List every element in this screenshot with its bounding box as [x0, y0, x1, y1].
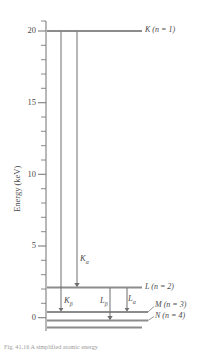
- level-label-N: N (n = 4): [155, 311, 185, 320]
- leader-N: [148, 317, 154, 321]
- level-label-M: M (n = 3): [155, 300, 186, 309]
- level-label-L: L (n = 2): [145, 282, 174, 291]
- figure-caption: Fig. 41.16 A simplified atomic energy: [4, 343, 200, 351]
- y-axis-title: Energy (keV): [12, 166, 22, 212]
- level-label-K: K (n = 1): [145, 25, 175, 34]
- y-tick-label-5: 5: [18, 240, 36, 250]
- transition-label-K-beta-sub: β: [70, 301, 73, 307]
- level-lines: [47, 31, 148, 328]
- transition-label-L-alpha: Lα: [128, 293, 136, 305]
- transition-label-L-alpha-sub: α: [133, 299, 136, 305]
- transition-label-K-alpha: Kα: [80, 253, 89, 265]
- y-axis: [38, 21, 46, 331]
- level-leader-lines: [148, 307, 154, 321]
- y-tick-label-15: 15: [18, 97, 36, 107]
- transition-arrows: [61, 32, 127, 319]
- transition-label-L-beta-sub: β: [105, 301, 108, 307]
- leader-M: [148, 307, 154, 313]
- transition-label-L-beta: Lβ: [100, 295, 108, 307]
- y-tick-label-0: 0: [18, 312, 36, 322]
- y-tick-label-20: 20: [18, 25, 36, 35]
- transition-label-K-beta: Kβ: [64, 295, 73, 307]
- transition-label-K-alpha-sub: α: [86, 259, 89, 265]
